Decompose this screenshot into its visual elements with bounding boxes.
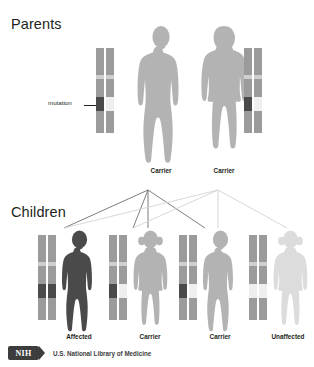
centromere-band bbox=[244, 75, 252, 79]
figure-child-3 bbox=[200, 230, 241, 326]
inheritance-lines-mother bbox=[64, 190, 287, 228]
chromosome-pair-father bbox=[96, 48, 114, 133]
centromere-band bbox=[179, 262, 187, 266]
chromosome-child-2-a bbox=[109, 235, 117, 320]
nih-logo-text: NIH bbox=[15, 349, 31, 358]
centromere-band bbox=[189, 262, 197, 266]
chromosome-mother-paternal bbox=[254, 48, 262, 133]
caption-child-4: Unaffected bbox=[271, 333, 304, 340]
female-child-silhouette bbox=[270, 230, 311, 326]
inheritance-lines-father bbox=[64, 190, 205, 228]
allele-normal bbox=[106, 97, 114, 111]
caption-mother: Carrier bbox=[214, 167, 235, 174]
chromosome-child-1-a bbox=[38, 235, 46, 320]
chromosome-pair-child-1 bbox=[38, 235, 56, 320]
allele-mutation bbox=[109, 284, 117, 298]
nih-logo: NIH bbox=[8, 346, 39, 360]
chromosome-child-4-a bbox=[249, 235, 257, 320]
caption-child-1: Affected bbox=[66, 333, 92, 340]
chromosome-father-paternal bbox=[106, 48, 114, 133]
chromosome-child-2-b bbox=[119, 235, 127, 320]
centromere-band bbox=[38, 262, 46, 266]
agency-name: U.S. National Library of Medicine bbox=[53, 350, 151, 357]
figure-father bbox=[132, 25, 190, 160]
figure-child-4 bbox=[270, 230, 311, 326]
figure-child-1 bbox=[59, 230, 100, 326]
chromosome-child-3-a bbox=[179, 235, 187, 320]
chromosome-pair-child-3 bbox=[179, 235, 197, 320]
caption-child-3: Carrier bbox=[210, 333, 231, 340]
caption-child-2: Carrier bbox=[140, 333, 161, 340]
allele-mutation bbox=[38, 284, 46, 298]
mutation-leader-line bbox=[84, 105, 96, 106]
allele-mutation bbox=[96, 97, 104, 111]
allele-mutation bbox=[244, 97, 252, 111]
inheritance-diagram: Parents mutation Carrier Carrier bbox=[0, 0, 314, 367]
chromosome-pair-child-2 bbox=[109, 235, 127, 320]
figure-child-2 bbox=[130, 230, 171, 326]
centromere-band bbox=[96, 75, 104, 79]
chromosome-father-maternal bbox=[96, 48, 104, 133]
centromere-band bbox=[48, 262, 56, 266]
centromere-band bbox=[106, 75, 114, 79]
chromosome-child-4-b bbox=[259, 235, 267, 320]
allele-normal bbox=[189, 284, 197, 298]
allele-mutation bbox=[48, 284, 56, 298]
children-section-heading: Children bbox=[11, 204, 66, 220]
chromosome-pair-mother bbox=[244, 48, 262, 133]
centromere-band bbox=[109, 262, 117, 266]
chromosome-child-1-b bbox=[48, 235, 56, 320]
mutation-label: mutation bbox=[48, 99, 72, 106]
male-adult-silhouette bbox=[132, 25, 190, 160]
allele-normal bbox=[259, 284, 267, 298]
female-child-silhouette bbox=[130, 230, 171, 326]
centromere-band bbox=[249, 262, 257, 266]
centromere-band bbox=[259, 262, 267, 266]
allele-normal bbox=[249, 284, 257, 298]
centromere-band bbox=[119, 262, 127, 266]
caption-father: Carrier bbox=[151, 167, 172, 174]
chromosome-mother-maternal bbox=[244, 48, 252, 133]
parents-section-heading: Parents bbox=[11, 16, 62, 32]
male-child-silhouette bbox=[59, 230, 100, 326]
male-child-silhouette bbox=[200, 230, 241, 326]
allele-mutation bbox=[179, 284, 187, 298]
nih-footer: NIH U.S. National Library of Medicine bbox=[8, 346, 151, 360]
chromosome-pair-child-4 bbox=[249, 235, 267, 320]
allele-normal bbox=[254, 97, 262, 111]
chevron-right-icon bbox=[39, 346, 45, 360]
allele-normal bbox=[119, 284, 127, 298]
chromosome-child-3-b bbox=[189, 235, 197, 320]
centromere-band bbox=[254, 75, 262, 79]
